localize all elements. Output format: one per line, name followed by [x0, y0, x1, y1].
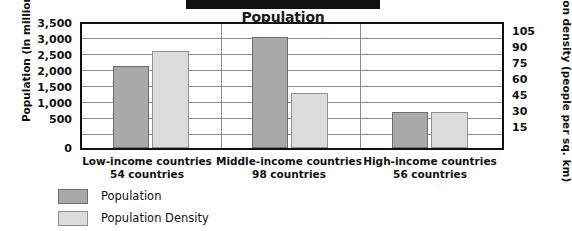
legend-label-population: Population — [101, 189, 161, 203]
title-rule — [186, 0, 380, 9]
right-tick-15: 15 — [512, 121, 546, 134]
bar-population-high-income — [392, 112, 428, 148]
bar-density-middle-income — [291, 93, 328, 148]
left-tick-3000: 3,000 — [6, 33, 72, 46]
gridline-3000 — [82, 38, 502, 39]
right-tick-105: 105 — [512, 25, 546, 38]
bar-population-low-income — [113, 66, 149, 148]
category-name-high-income: High-income countries — [363, 155, 497, 167]
left-tick-3500: 3,500 — [6, 17, 72, 30]
category-count-high-income: 56 countries — [345, 168, 515, 181]
right-tick-30: 30 — [512, 105, 546, 118]
legend-item-population: Population — [58, 186, 209, 206]
bar-population-middle-income — [252, 37, 288, 148]
category-name-middle-income: Middle-income countries — [216, 155, 362, 167]
left-tick-0: 0 — [6, 142, 72, 155]
right-axis-title: Population density (people per sq. km) — [561, 0, 572, 181]
plot-area — [80, 22, 504, 150]
bar-density-low-income — [152, 51, 189, 148]
group-separator-1 — [221, 24, 222, 148]
category-label-high-income: High-income countries 56 countries — [345, 155, 515, 181]
left-tick-1500: 1,500 — [6, 81, 72, 94]
left-tick-1000: 1,000 — [6, 97, 72, 110]
category-name-low-income: Low-income countries — [82, 155, 212, 167]
population-chart-figure: Population Population (in millions) Popu… — [0, 0, 572, 231]
chart-legend: Population Population Density — [58, 186, 209, 230]
right-tick-60: 60 — [512, 73, 546, 86]
left-tick-2000: 2,000 — [6, 65, 72, 78]
bar-density-high-income — [431, 112, 468, 148]
gridline-2500 — [82, 54, 502, 55]
group-separator-2 — [360, 24, 361, 148]
left-tick-2500: 2,500 — [6, 49, 72, 62]
left-tick-500: 500 — [6, 113, 72, 126]
right-tick-90: 90 — [512, 41, 546, 54]
right-tick-45: 45 — [512, 89, 546, 102]
right-tick-75: 75 — [512, 57, 546, 70]
legend-label-population-density: Population Density — [101, 211, 209, 225]
legend-swatch-density-icon — [58, 211, 88, 226]
legend-swatch-population-icon — [58, 189, 88, 204]
legend-item-population-density: Population Density — [58, 208, 209, 228]
